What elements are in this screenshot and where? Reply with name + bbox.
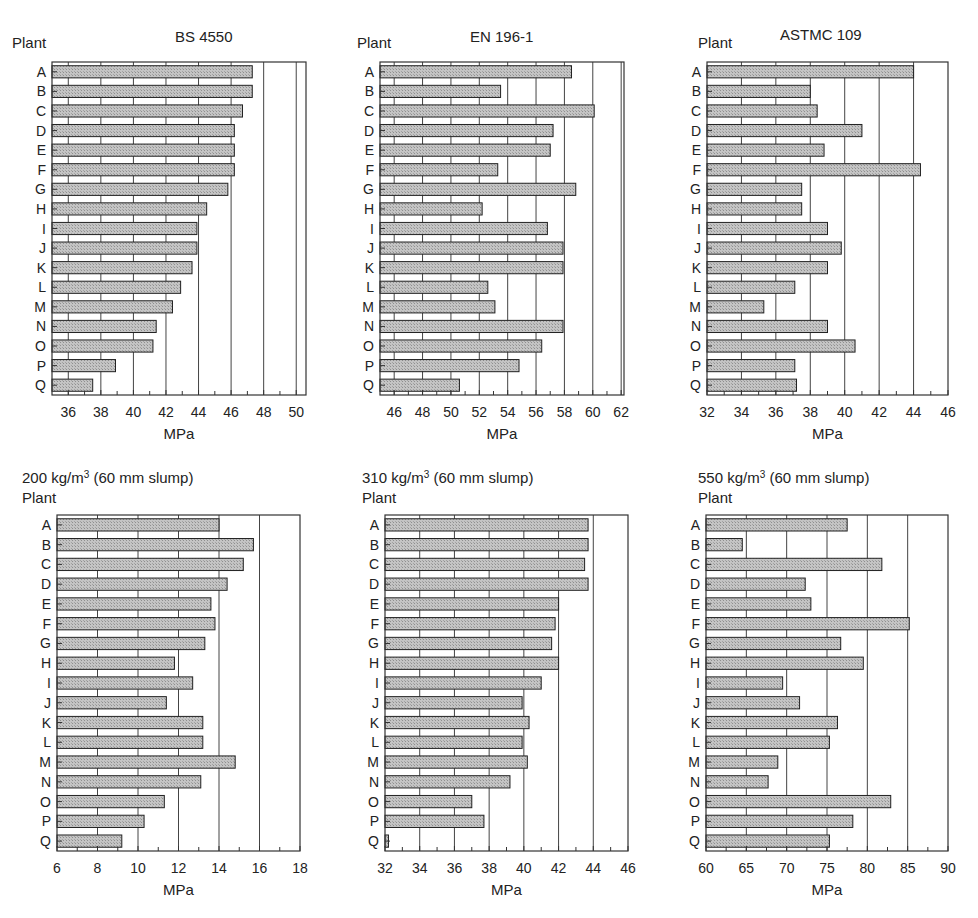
category-label: C [36, 103, 46, 119]
bar-l [385, 736, 522, 748]
bar-f [707, 164, 920, 176]
bar-h [52, 203, 207, 215]
bar-q [52, 379, 93, 391]
chart-title: 310 kg/m3 (60 mm slump) [362, 469, 533, 487]
category-label: F [692, 162, 701, 178]
bar-o [706, 795, 891, 807]
y-axis-label: Plant [698, 489, 733, 506]
y-axis-label: Plant [12, 34, 47, 51]
x-tick-label: 38 [802, 404, 818, 420]
category-label: N [36, 318, 46, 334]
x-tick-label: 65 [739, 860, 755, 876]
bar-m [706, 756, 778, 768]
bar-m [385, 756, 527, 768]
category-label: N [690, 774, 700, 790]
x-tick-label: 48 [256, 404, 272, 420]
category-label: E [365, 142, 374, 158]
bar-i [385, 677, 541, 689]
bar-n [385, 776, 510, 788]
x-tick-label: 42 [551, 860, 567, 876]
category-label: N [41, 774, 51, 790]
category-label: M [689, 299, 701, 315]
category-label: M [34, 299, 46, 315]
bar-j [706, 697, 800, 709]
bar-f [52, 164, 234, 176]
category-label: B [37, 83, 46, 99]
category-label: L [38, 279, 46, 295]
category-label: E [37, 142, 46, 158]
category-label: P [37, 358, 46, 374]
x-tick-label: 44 [906, 404, 922, 420]
category-label: H [690, 655, 700, 671]
chart-panel-3: ASTMC 109PlantABCDEFGHIJKLMNOPQ323436384… [689, 26, 956, 442]
category-label: L [692, 734, 700, 750]
category-label: C [41, 556, 51, 572]
category-label: B [692, 83, 701, 99]
bar-b [57, 539, 253, 551]
x-tick-label: 46 [386, 404, 402, 420]
x-tick-label: 46 [620, 860, 636, 876]
chart-figure: BS 4550PlantABCDEFGHIJKLMNOPQ36384042444… [0, 0, 978, 918]
category-label: M [688, 754, 700, 770]
category-label: G [363, 181, 374, 197]
y-axis-label: Plant [22, 489, 57, 506]
bar-c [57, 558, 243, 570]
bar-a [707, 66, 914, 78]
bar-b [52, 85, 252, 97]
x-tick-label: 42 [871, 404, 887, 420]
x-tick-label: 36 [60, 404, 76, 420]
category-label: F [691, 616, 700, 632]
category-label: I [47, 675, 51, 691]
x-tick-label: 60 [698, 860, 714, 876]
x-tick-label: 40 [126, 404, 142, 420]
x-tick-label: 52 [472, 404, 488, 420]
category-label: A [365, 64, 375, 80]
x-tick-label: 42 [158, 404, 174, 420]
bar-o [52, 340, 153, 352]
category-label: L [366, 279, 374, 295]
category-label: Q [368, 833, 379, 849]
bar-l [52, 281, 181, 293]
category-label: C [364, 103, 374, 119]
category-label: I [42, 221, 46, 237]
category-label: A [42, 517, 52, 533]
category-label: E [692, 142, 701, 158]
bar-g [706, 637, 841, 649]
bar-b [385, 539, 588, 551]
category-label: N [691, 318, 701, 334]
category-label: F [42, 616, 51, 632]
x-tick-label: 50 [288, 404, 304, 420]
chart-panel-5: 310 kg/m3 (60 mm slump)PlantABCDEFGHIJKL… [362, 469, 636, 899]
bar-i [706, 677, 783, 689]
category-label: B [365, 83, 374, 99]
category-label: B [42, 537, 51, 553]
y-axis-label: Plant [362, 489, 397, 506]
category-label: L [371, 734, 379, 750]
bar-p [380, 360, 519, 372]
x-tick-label: 46 [223, 404, 239, 420]
category-label: G [35, 181, 46, 197]
category-label: O [35, 338, 46, 354]
bar-e [380, 144, 550, 156]
bar-j [57, 697, 166, 709]
bar-p [385, 815, 484, 827]
category-label: F [370, 616, 379, 632]
category-label: J [44, 695, 51, 711]
chart-title: 200 kg/m3 (60 mm slump) [22, 469, 193, 487]
category-label: Q [35, 377, 46, 393]
bar-a [706, 519, 847, 531]
bar-c [380, 105, 594, 117]
category-label: G [368, 635, 379, 651]
bar-h [707, 203, 802, 215]
x-tick-label: 44 [585, 860, 601, 876]
x-axis-label: MPa [487, 425, 519, 442]
category-label: D [691, 123, 701, 139]
bar-k [57, 716, 203, 728]
title-suffix: (60 mm slump) [765, 469, 869, 486]
bar-m [707, 301, 764, 313]
category-label: L [693, 279, 701, 295]
bar-e [706, 598, 811, 610]
bar-f [706, 618, 909, 630]
category-label: A [37, 64, 47, 80]
category-label: C [691, 103, 701, 119]
